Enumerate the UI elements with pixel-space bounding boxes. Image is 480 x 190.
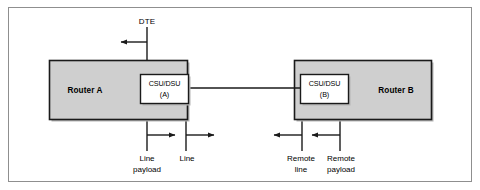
csu-dsu-a-label-line1: CSU/DSU	[149, 79, 181, 88]
figure-container: Router A Router B CSU/DSU (A) CSU/DSU (B…	[0, 0, 480, 190]
csu-dsu-b-label-line1: CSU/DSU	[309, 79, 341, 88]
router-b-label: Router B	[378, 86, 413, 95]
remote-payload-label-line2: payload	[327, 165, 355, 174]
line-payload-label-line2: payload	[133, 165, 161, 174]
csu-dsu-b-label-line2: (B)	[320, 90, 329, 99]
router-a-label: Router A	[67, 86, 102, 95]
remote-line-label-line1: Remote	[287, 154, 316, 163]
line-label-line1: Line	[179, 154, 195, 163]
network-diagram: Router A Router B CSU/DSU (A) CSU/DSU (B…	[0, 0, 480, 190]
remote-line-label-line2: line	[295, 165, 308, 174]
line-payload-label-line1: Line	[139, 154, 155, 163]
remote-payload-label-line1: Remote	[327, 154, 356, 163]
dte-label: DTE	[139, 17, 156, 26]
csu-dsu-a-label-line2: (A)	[160, 90, 169, 99]
